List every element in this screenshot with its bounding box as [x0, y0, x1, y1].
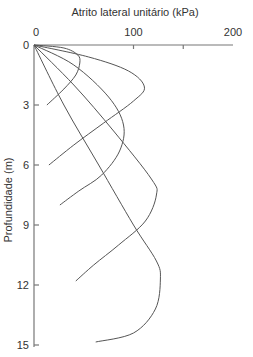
curves [34, 45, 160, 342]
y-axis: 03691215 [17, 39, 39, 351]
curve-5 [34, 45, 160, 342]
chart: Atrito lateral unitário (kPa) 0100200 03… [0, 0, 253, 357]
curve-4 [34, 45, 157, 281]
y-tick-label: 6 [23, 159, 29, 171]
x-axis: 0100200 [33, 26, 242, 49]
x-tick-label: 0 [33, 26, 39, 38]
y-axis-label: Profundidade (m) [2, 158, 14, 243]
y-tick-label: 12 [17, 279, 29, 291]
x-tick-label: 100 [124, 26, 142, 38]
y-tick-label: 3 [23, 99, 29, 111]
curve-2 [34, 45, 145, 165]
curve-3 [34, 45, 124, 205]
y-tick-label: 0 [23, 39, 29, 51]
chart-title: Atrito lateral unitário (kPa) [71, 6, 198, 18]
curve-1 [34, 45, 80, 105]
y-tick-label: 15 [17, 339, 29, 351]
x-tick-label: 200 [224, 26, 242, 38]
y-tick-label: 9 [23, 219, 29, 231]
